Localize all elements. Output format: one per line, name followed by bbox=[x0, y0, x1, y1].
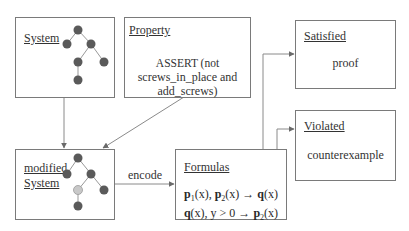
satisfied-title: Satisfied bbox=[304, 29, 346, 43]
arrow-formulas-to-violated bbox=[277, 129, 294, 149]
formula-p2-arg: (x) → bbox=[225, 187, 257, 201]
formula-line-1: p1(x), p2(x) → q(x) bbox=[176, 187, 286, 206]
assertion-line-3: add_screws) bbox=[125, 84, 250, 98]
formula-lines: p1(x), p2(x) → q(x) q(x), y > 0 → p2(x) bbox=[176, 187, 286, 226]
violated-box: Violated counterexample bbox=[295, 110, 396, 181]
formulas-title: Formulas bbox=[184, 160, 229, 174]
encode-label: encode bbox=[128, 168, 162, 183]
property-title: Property bbox=[129, 23, 170, 37]
property-box: Property ASSERT (not screws_in_place and… bbox=[124, 17, 251, 98]
formula-q2-arg: (x), y > 0 → bbox=[191, 206, 254, 220]
property-assertion: ASSERT (not screws_in_place and add_scre… bbox=[125, 56, 250, 98]
assertion-line-2: screws_in_place and bbox=[125, 70, 250, 84]
formula-line-2: q(x), y > 0 → p2(x) bbox=[176, 206, 286, 225]
modified-system-tree-icon bbox=[58, 148, 118, 218]
formula-p2b-arg: (x) bbox=[264, 206, 278, 220]
formula-p1-arg: (x), bbox=[195, 187, 215, 201]
modified-system-box: modified System bbox=[15, 149, 115, 220]
arrow-formulas-to-satisfied bbox=[263, 54, 294, 149]
formula-q2: q bbox=[184, 206, 191, 220]
formulas-box: Formulas p1(x), p2(x) → q(x) q(x), y > 0… bbox=[175, 149, 287, 220]
satisfied-body: proof bbox=[296, 56, 395, 70]
violated-title: Violated bbox=[304, 119, 345, 133]
system-box: System bbox=[15, 17, 115, 98]
satisfied-box: Satisfied proof bbox=[295, 20, 396, 89]
arrow-property-to-modified bbox=[103, 97, 184, 148]
formula-q-arg: (x) bbox=[264, 187, 278, 201]
system-tree-icon bbox=[58, 22, 118, 92]
violated-body: counterexample bbox=[296, 148, 395, 162]
system-title: System bbox=[24, 31, 59, 45]
assertion-line-1: ASSERT (not bbox=[125, 56, 250, 70]
modified-system-title-2: System bbox=[24, 176, 59, 190]
formula-p1: p bbox=[184, 187, 191, 201]
